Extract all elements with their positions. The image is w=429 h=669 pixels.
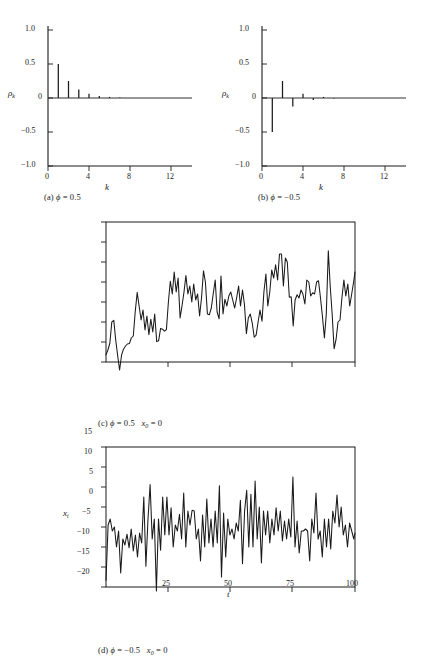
panel-d-series-negative: xt 15 10 5 0: [0, 435, 429, 630]
panel-b-acf-negative: ρk: [214, 8, 429, 193]
panel-a-bars: [58, 64, 120, 98]
panel-a-ylabel: ρk: [8, 88, 15, 99]
panel-c-series-positive: xt: [0, 210, 429, 405]
panel-b-xtick-0: 0: [259, 172, 263, 181]
panel-a-ytick-1: 1.0: [25, 24, 35, 33]
panel-b-y-ticks: [262, 30, 267, 166]
panel-b-ytick-neg1: −1.0: [235, 160, 250, 169]
panel-d-x-ticks: [168, 587, 355, 592]
panel-b-ytick-neg05: −0.5: [235, 126, 250, 135]
panel-a-ytick-0: 0: [38, 92, 42, 101]
caption-a: (a) ϕ = 0.5: [44, 192, 81, 202]
panel-d-y-ticks: [101, 447, 106, 587]
panel-a-ytick-neg1: −1.0: [21, 160, 36, 169]
panel-a-xtick-0: 0: [45, 172, 49, 181]
panel-a-ytick-05: 0.5: [25, 58, 35, 67]
panel-a-acf-positive: ρk: [0, 8, 214, 193]
panel-c-series-line: [106, 251, 355, 370]
panel-c-x-ticks: [168, 362, 355, 367]
panel-a-xtick-12: 12: [166, 172, 174, 181]
panel-c-y-ticks: [101, 222, 106, 362]
panel-b-ylabel: ρk: [222, 88, 229, 99]
panel-a-y-ticks: [48, 30, 53, 166]
caption-d: (d) ϕ = −0.5 x0 = 0: [98, 645, 168, 656]
panel-a-ytick-neg05: −0.5: [21, 126, 36, 135]
figure-container: ρk: [0, 0, 429, 669]
panel-b-x-ticks: [262, 166, 385, 171]
panel-d-plot-area: [0, 435, 429, 630]
panel-b-bars: [272, 81, 334, 132]
panel-b-xtick-12: 12: [380, 172, 388, 181]
panel-c-plot-area: [0, 210, 429, 405]
panel-b-xtick-4: 4: [300, 172, 304, 181]
panel-b-ytick-1: 1.0: [239, 24, 249, 33]
panel-a-xtick-8: 8: [127, 172, 131, 181]
panel-b-ytick-0: 0: [252, 92, 256, 101]
panel-b-ytick-05: 0.5: [239, 58, 249, 67]
caption-b: (b) ϕ = −0.5: [258, 192, 300, 202]
panel-d-series-line: [106, 477, 355, 591]
panel-b-xlabel: k: [319, 182, 323, 192]
caption-c: (c) ϕ = 0.5 x0 = 0: [98, 418, 162, 429]
panel-b-xtick-8: 8: [341, 172, 345, 181]
panel-a-xtick-4: 4: [86, 172, 90, 181]
panel-a-xlabel: k: [105, 182, 109, 192]
panel-a-x-ticks: [48, 166, 171, 171]
